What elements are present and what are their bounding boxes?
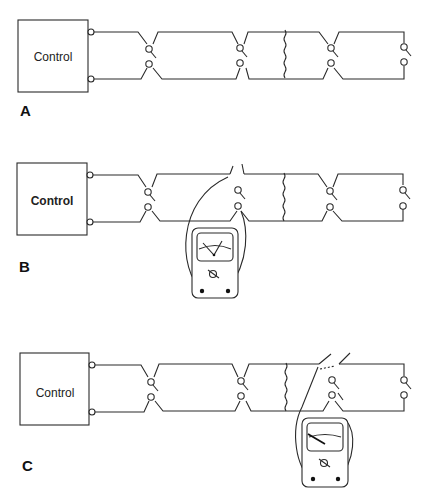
wire-bottom [95, 398, 404, 412]
wire-bottom [93, 208, 403, 222]
terminal-top [89, 362, 95, 368]
panel-b: Control B [17, 163, 410, 298]
control-label: Control [31, 194, 74, 208]
wire-break [283, 173, 285, 221]
panel-label-a: A [20, 102, 31, 119]
panel-label-b: B [19, 258, 30, 275]
multimeter [192, 228, 238, 298]
terminal-bottom [87, 219, 93, 225]
panel-a: Control A [18, 20, 411, 119]
meter-face [197, 233, 233, 261]
disconnected-wire-ends [319, 353, 350, 364]
wiring-diagram: Control A Control [0, 0, 427, 503]
terminal-top [87, 172, 93, 178]
disconnected-wire-ends [230, 164, 244, 174]
control-label: Control [34, 50, 73, 64]
wire-bottom [94, 66, 404, 79]
meter-jack-left [200, 289, 204, 293]
wire-break [285, 363, 287, 411]
meter-jack-right [226, 289, 230, 293]
wire-top [94, 32, 404, 44]
control-label: Control [36, 386, 75, 400]
wire-top-left [93, 174, 230, 187]
wire-top-right [339, 364, 404, 376]
panel-c: Control C [20, 353, 411, 487]
wire-top-right [244, 174, 403, 187]
terminal-top [88, 29, 94, 35]
multimeter [302, 418, 348, 487]
panel-label-c: C [22, 457, 33, 474]
wire-break [284, 30, 286, 78]
meter-jack-right [336, 477, 340, 481]
meter-jack-left [311, 477, 315, 481]
terminal-bottom [89, 409, 95, 415]
terminal-bottom [88, 76, 94, 82]
